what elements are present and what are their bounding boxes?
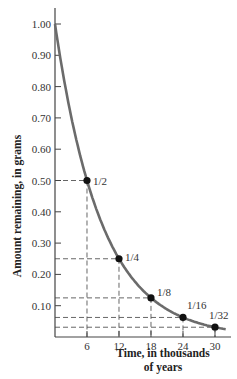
data-point — [147, 294, 154, 301]
y-axis-title: Amount remaining, in grams — [11, 134, 24, 277]
y-tick-label: 0.90 — [32, 49, 52, 61]
data-point — [179, 314, 186, 321]
data-point — [83, 177, 90, 184]
y-tick-label: 0.20 — [32, 268, 52, 280]
y-tick-label: 1.00 — [32, 18, 52, 30]
x-tick-label: 30 — [209, 340, 221, 352]
y-tick-label: 0.30 — [32, 237, 52, 249]
point-label: 1/32 — [209, 309, 229, 321]
data-points: 1/21/41/81/161/32 — [83, 175, 228, 331]
x-tick-label: 6 — [84, 340, 90, 352]
y-tick-labels: 0.100.200.300.400.500.600.700.800.901.00 — [32, 18, 52, 312]
point-label: 1/4 — [125, 251, 140, 263]
point-label: 1/8 — [157, 286, 172, 298]
y-tick-label: 0.80 — [32, 81, 52, 93]
y-tick-label: 0.60 — [32, 143, 52, 155]
y-tick-label: 0.70 — [32, 112, 52, 124]
x-axis-title-line1: Time, in thousands — [116, 347, 210, 359]
data-point — [115, 255, 122, 262]
half-life-chart: 1/21/41/81/161/32 0.100.200.300.400.500.… — [0, 0, 237, 379]
decay-curve — [55, 24, 226, 329]
point-label: 1/2 — [93, 175, 107, 187]
axes — [55, 8, 231, 337]
x-axis-title-line2: of years — [144, 361, 183, 374]
y-tick-label: 0.10 — [32, 300, 52, 312]
point-label: 1/16 — [187, 299, 207, 311]
y-tick-label: 0.50 — [32, 175, 52, 187]
y-tick-label: 0.40 — [32, 206, 52, 218]
data-point — [211, 324, 218, 331]
